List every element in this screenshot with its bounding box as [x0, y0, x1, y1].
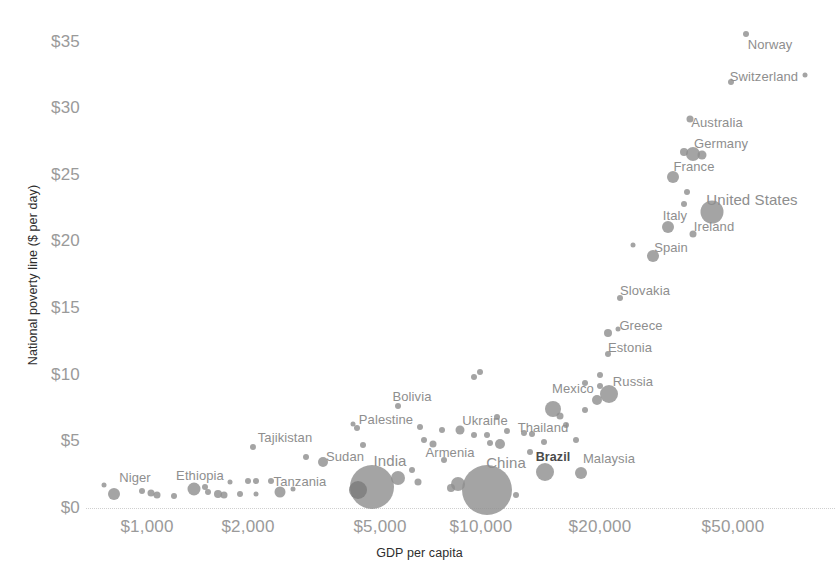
data-point[interactable]	[349, 481, 367, 499]
data-point-china[interactable]	[462, 465, 512, 515]
x-tick-label: $2,000	[221, 517, 274, 537]
data-point[interactable]	[684, 189, 690, 195]
x-tick-label: $20,000	[569, 517, 632, 537]
point-label: Palestine	[359, 412, 413, 427]
data-point[interactable]	[803, 73, 808, 78]
data-point[interactable]	[631, 243, 636, 248]
x-tick-label: $10,000	[450, 517, 513, 537]
point-label: Niger	[119, 470, 151, 485]
data-point-brazil[interactable]	[536, 463, 554, 481]
point-label: Russia	[613, 374, 653, 389]
point-label: Ethiopia	[176, 468, 224, 483]
data-point-ethiopia[interactable]	[188, 483, 201, 496]
data-point[interactable]	[680, 148, 688, 156]
data-point[interactable]	[245, 478, 251, 484]
data-point[interactable]	[563, 422, 569, 428]
data-point[interactable]	[102, 483, 107, 488]
x-tick-label: $1,000	[120, 517, 173, 537]
data-point[interactable]	[303, 454, 309, 460]
data-point[interactable]	[471, 374, 477, 380]
point-label: Switzerland	[730, 69, 798, 84]
data-point-niger[interactable]	[139, 488, 145, 494]
point-label: Norway	[748, 37, 793, 52]
point-label: Ukraine	[462, 413, 508, 428]
data-point[interactable]	[529, 431, 535, 437]
data-point[interactable]	[154, 492, 161, 499]
data-point[interactable]	[541, 439, 547, 445]
y-tick-label: $10	[22, 366, 80, 383]
point-label: Slovakia	[620, 283, 670, 298]
data-point-bolivia[interactable]	[395, 403, 401, 409]
data-point-malaysia[interactable]	[575, 467, 587, 479]
data-point[interactable]	[253, 478, 259, 484]
data-point[interactable]	[681, 201, 687, 207]
point-label: China	[486, 454, 526, 471]
point-label: Tajikistan	[258, 430, 312, 445]
data-point[interactable]	[573, 437, 579, 443]
data-point[interactable]	[409, 467, 415, 473]
point-label: Italy	[663, 208, 687, 223]
data-point[interactable]	[391, 471, 405, 485]
data-point[interactable]	[494, 414, 500, 420]
data-point[interactable]	[597, 372, 603, 378]
data-point[interactable]	[484, 432, 490, 438]
scatter-chart: National poverty line ($ per day) GDP pe…	[0, 0, 839, 585]
data-point[interactable]	[487, 440, 493, 446]
data-point-greece[interactable]	[604, 329, 612, 337]
x-tick-label: $50,000	[702, 517, 765, 537]
data-point[interactable]	[237, 491, 243, 497]
data-point[interactable]	[439, 427, 445, 433]
data-point[interactable]	[360, 442, 366, 448]
data-point[interactable]	[417, 424, 423, 430]
y-tick-label: $5	[22, 432, 80, 449]
data-point[interactable]	[557, 413, 564, 420]
data-point[interactable]	[582, 407, 588, 413]
data-point[interactable]	[447, 484, 455, 492]
point-label: Malaysia	[583, 451, 635, 466]
x-axis-title: GDP per capita	[0, 546, 839, 560]
x-axis-baseline	[86, 508, 835, 510]
y-tick-label: $0	[22, 499, 80, 516]
data-point[interactable]	[582, 380, 588, 386]
data-point[interactable]	[592, 395, 602, 405]
data-point[interactable]	[291, 487, 296, 492]
point-label: Brazil	[536, 450, 571, 464]
y-tick-label: $35	[22, 33, 80, 50]
data-point[interactable]	[513, 492, 519, 498]
y-tick-label: $30	[22, 99, 80, 116]
point-label: Sudan	[326, 449, 364, 464]
point-label: India	[373, 452, 406, 469]
data-point[interactable]	[430, 441, 437, 448]
data-point[interactable]	[477, 369, 483, 375]
data-point[interactable]	[205, 489, 211, 495]
data-point[interactable]	[171, 493, 177, 499]
data-point[interactable]	[421, 437, 427, 443]
y-axis-ticks: $0$5$10$15$20$25$30$35	[22, 0, 80, 585]
point-label: Estonia	[608, 340, 652, 355]
data-point[interactable]	[351, 422, 356, 427]
data-point[interactable]	[616, 327, 621, 332]
x-tick-label: $5,000	[353, 517, 406, 537]
point-label: Bolivia	[393, 389, 432, 404]
point-label: Greece	[619, 318, 662, 333]
data-point[interactable]	[228, 480, 233, 485]
data-point-italy[interactable]	[662, 221, 674, 233]
data-point[interactable]	[698, 151, 707, 160]
y-tick-label: $25	[22, 166, 80, 183]
data-point[interactable]	[521, 430, 527, 436]
point-label: Tanzania	[274, 474, 327, 489]
point-label: Australia	[691, 115, 742, 130]
y-tick-label: $15	[22, 299, 80, 316]
data-point[interactable]	[495, 439, 505, 449]
data-point[interactable]	[108, 488, 120, 500]
data-point[interactable]	[471, 432, 477, 438]
data-point-thailand[interactable]	[527, 449, 533, 455]
data-point-tajikistan[interactable]	[250, 444, 256, 450]
point-label: United States	[706, 191, 797, 208]
point-label: Spain	[654, 240, 688, 255]
data-point[interactable]	[504, 428, 510, 434]
data-point[interactable]	[415, 479, 422, 486]
data-point[interactable]	[221, 492, 228, 499]
data-point[interactable]	[254, 492, 259, 497]
y-tick-label: $20	[22, 232, 80, 249]
